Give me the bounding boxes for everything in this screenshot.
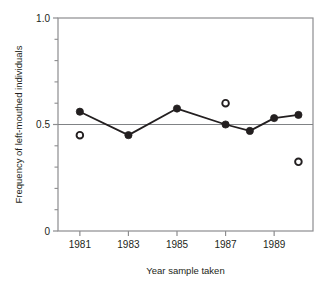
data-point-open xyxy=(295,158,302,165)
x-tick-label: 1985 xyxy=(166,239,189,250)
y-axis-tick-labels: 00.51.0 xyxy=(36,13,50,237)
x-axis-ticks xyxy=(80,231,274,236)
chart-figure: 00.51.0 19811983198519871989 Year sample… xyxy=(0,0,332,289)
y-tick-label: 0 xyxy=(44,226,50,237)
series-line-path-group xyxy=(80,109,299,136)
series-marker-group xyxy=(76,100,302,165)
data-point-filled xyxy=(222,121,229,128)
data-point-open xyxy=(222,100,229,107)
data-point-filled xyxy=(246,127,253,134)
data-point-filled xyxy=(295,111,302,118)
series-line-filled-series xyxy=(80,109,299,136)
x-axis-tick-labels: 19811983198519871989 xyxy=(69,239,286,250)
x-tick-label: 1989 xyxy=(263,239,286,250)
data-point-open xyxy=(77,132,84,139)
x-tick-label: 1981 xyxy=(69,239,92,250)
frequency-line-chart: 00.51.0 19811983198519871989 Year sample… xyxy=(0,0,332,289)
data-point-filled xyxy=(125,132,132,139)
y-tick-label: 0.5 xyxy=(36,119,50,130)
x-tick-label: 1983 xyxy=(117,239,140,250)
y-axis-title: Frequency of left-mouthed individuals xyxy=(13,45,24,203)
y-tick-label: 1.0 xyxy=(36,13,50,24)
x-tick-label: 1987 xyxy=(214,239,237,250)
data-point-filled xyxy=(76,108,83,115)
data-point-filled xyxy=(173,105,180,112)
x-axis-title: Year sample taken xyxy=(146,265,224,276)
data-point-filled xyxy=(271,115,278,122)
y-axis-ticks xyxy=(53,18,58,231)
